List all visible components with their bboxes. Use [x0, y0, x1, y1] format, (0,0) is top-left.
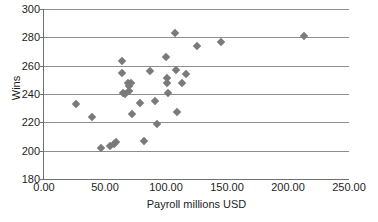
- data-point: [118, 57, 126, 65]
- data-point: [140, 137, 148, 145]
- data-point: [151, 97, 159, 105]
- scatter-chart: Wins 180200220240260280300 0.0050.00100.…: [0, 0, 378, 222]
- data-point: [146, 67, 154, 75]
- gridline-y: [44, 179, 349, 180]
- data-point: [128, 110, 136, 118]
- gridline-y: [44, 151, 349, 152]
- data-point: [136, 98, 144, 106]
- data-point: [71, 100, 79, 108]
- data-point: [164, 88, 172, 96]
- data-point: [118, 69, 126, 77]
- data-point: [178, 78, 186, 86]
- gridline-y: [44, 94, 349, 95]
- gridline-y: [44, 122, 349, 123]
- x-tick-label: 0.00: [14, 182, 74, 193]
- data-point: [173, 108, 181, 116]
- x-tick-label: 150.00: [197, 182, 257, 193]
- data-point: [162, 53, 170, 61]
- data-point: [87, 112, 95, 120]
- gridline-y: [44, 66, 349, 67]
- data-point: [300, 32, 308, 40]
- x-tick-label: 250.00: [319, 182, 378, 193]
- data-point: [172, 66, 180, 74]
- data-point: [170, 29, 178, 37]
- gridline-y: [44, 9, 349, 10]
- plot-area: [44, 9, 349, 179]
- data-point: [181, 70, 189, 78]
- x-tick-label: 50.00: [75, 182, 135, 193]
- data-point: [163, 78, 171, 86]
- x-axis-title: Payroll millions USD: [44, 198, 349, 210]
- data-point: [217, 37, 225, 45]
- data-point: [192, 42, 200, 50]
- x-tick-label: 200.00: [258, 182, 318, 193]
- x-tick-label: 100.00: [136, 182, 196, 193]
- data-point: [153, 120, 161, 128]
